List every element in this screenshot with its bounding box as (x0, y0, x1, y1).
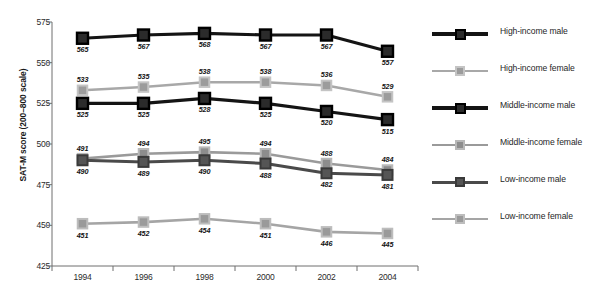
legend-item-low-income-male[interactable]: Low-income male (432, 164, 600, 201)
legend-swatch-icon (432, 138, 488, 152)
data-label: 446 (321, 238, 333, 247)
legend-marker-icon (455, 66, 465, 76)
data-label: 525 (77, 110, 89, 119)
data-label: 538 (199, 67, 211, 76)
data-point-marker (139, 157, 149, 167)
legend-item-high-income-female[interactable]: High-income female (432, 53, 600, 90)
legend-label: High-income male (500, 26, 568, 36)
data-label: 567 (260, 42, 272, 51)
data-point-marker (260, 98, 271, 109)
legend-swatch-icon (432, 64, 488, 78)
data-point-marker (261, 219, 271, 229)
legend-swatch-icon (432, 27, 488, 41)
series-low-income-female (78, 214, 393, 238)
legend-marker-icon (455, 29, 466, 40)
data-label: 533 (77, 75, 89, 84)
data-label: 481 (382, 181, 394, 190)
data-label: 445 (382, 240, 394, 249)
data-point-marker (261, 159, 271, 169)
data-label: 520 (321, 118, 333, 127)
data-point-marker (138, 30, 149, 41)
legend-label: Middle-income female (500, 137, 582, 147)
data-point-marker (77, 98, 88, 109)
data-label: 488 (321, 148, 333, 157)
data-label: 557 (382, 58, 394, 67)
data-point-marker (200, 155, 210, 165)
data-label: 568 (199, 40, 211, 49)
data-point-marker (78, 219, 88, 229)
series-high-income-female (78, 77, 393, 101)
series-low-income-male (78, 155, 393, 180)
legend-item-high-income-male[interactable]: High-income male (432, 16, 600, 53)
data-point-marker (139, 82, 149, 92)
legend-label: Middle-income male (500, 100, 575, 110)
series-middle-income-male (77, 93, 393, 125)
data-label: 494 (138, 138, 150, 147)
series-line (83, 33, 388, 51)
data-label: 454 (199, 225, 211, 234)
data-label: 494 (260, 138, 272, 147)
data-label: 536 (321, 70, 333, 79)
data-label: 565 (77, 45, 89, 54)
data-point-marker (322, 159, 332, 169)
data-point-marker (200, 77, 210, 87)
legend-swatch-icon (432, 175, 488, 189)
data-point-marker (322, 168, 332, 178)
data-label: 482 (321, 180, 333, 189)
data-label: 535 (138, 72, 150, 81)
data-label: 567 (321, 42, 333, 51)
legend-item-middle-income-male[interactable]: Middle-income male (432, 90, 600, 127)
data-label: 490 (199, 167, 211, 176)
data-label: 488 (260, 170, 272, 179)
legend-marker-icon (455, 214, 465, 224)
legend-swatch-icon (432, 101, 488, 115)
data-point-marker (382, 46, 393, 57)
legend-item-low-income-female[interactable]: Low-income female (432, 201, 600, 238)
data-label: 489 (138, 168, 150, 177)
data-point-marker (138, 98, 149, 109)
data-label: 490 (77, 167, 89, 176)
series-line (83, 98, 388, 119)
data-point-marker (199, 93, 210, 104)
data-label: 451 (77, 230, 89, 239)
data-point-marker (382, 114, 393, 125)
data-point-marker (383, 170, 393, 180)
legend-label: High-income female (500, 63, 575, 73)
data-point-marker (78, 86, 88, 96)
data-point-marker (322, 227, 332, 237)
data-label: 538 (260, 67, 272, 76)
data-label: 491 (77, 143, 89, 152)
legend-label: Low-income female (500, 211, 573, 221)
data-label: 495 (199, 137, 211, 146)
data-label: 567 (138, 42, 150, 51)
data-point-marker (383, 92, 393, 102)
sat-score-line-chart: SAT-M score (200–800 scale) 425450475500… (0, 0, 600, 294)
data-point-marker (321, 30, 332, 41)
data-label: 451 (260, 230, 272, 239)
data-label: 525 (260, 110, 272, 119)
data-label: 525 (138, 110, 150, 119)
data-label: 515 (382, 126, 394, 135)
data-label: 484 (382, 155, 394, 164)
legend-marker-icon (455, 140, 465, 150)
legend-marker-icon (455, 177, 465, 187)
series-line (83, 219, 388, 234)
legend-swatch-icon (432, 212, 488, 226)
data-point-marker (78, 155, 88, 165)
series-line (83, 82, 388, 97)
data-point-marker (261, 149, 271, 159)
data-point-marker (261, 77, 271, 87)
data-point-marker (200, 214, 210, 224)
series-high-income-male (77, 28, 393, 57)
data-point-marker (77, 33, 88, 44)
data-point-marker (321, 106, 332, 117)
data-point-marker (199, 28, 210, 39)
data-point-marker (139, 217, 149, 227)
legend-item-middle-income-female[interactable]: Middle-income female (432, 127, 600, 164)
legend-label: Low-income male (500, 174, 566, 184)
data-label: 529 (382, 81, 394, 90)
data-point-marker (260, 30, 271, 41)
data-point-marker (383, 229, 393, 239)
legend-marker-icon (455, 103, 466, 114)
data-label: 452 (138, 229, 150, 238)
